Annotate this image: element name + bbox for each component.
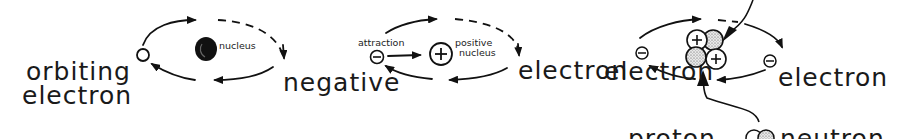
orbit-arrow-bottom-left	[152, 64, 195, 80]
nucleus-dot	[195, 37, 217, 61]
orbit-arrow-bottom-right	[215, 67, 273, 80]
nucleus-label-2: nucleus	[459, 47, 496, 58]
neutron-label: neutron	[780, 124, 885, 139]
detail-arrow-right	[745, 24, 782, 47]
proton-label: proton	[628, 124, 716, 139]
electron-label-5: electron	[778, 63, 888, 92]
attr-arrow-bottom-right	[450, 68, 507, 80]
attr-arrow-top-left	[386, 19, 436, 33]
attraction-label: attraction	[358, 37, 404, 48]
orbit-arrow-top-left	[143, 20, 195, 45]
atom-diagram: nucleus orbiting electron attraction pos…	[0, 0, 912, 139]
orbit-arrow-right	[283, 45, 284, 58]
detail-arrow-bottom-right	[718, 70, 765, 80]
pointer-line-bottom	[703, 80, 759, 122]
pointer-line-top	[730, 0, 753, 32]
negative-label: negative	[283, 68, 400, 97]
panel-orbit: nucleus orbiting electron	[22, 20, 284, 110]
detail-dashed-top	[718, 20, 738, 22]
panel-attraction: attraction positive nucleus negative ele…	[283, 19, 628, 97]
electron-label-4: electron	[604, 57, 714, 86]
orbiting-electron-circle	[137, 49, 149, 61]
nucleus-label: nucleus	[219, 40, 256, 51]
attr-arrow-right	[518, 44, 519, 55]
neutron-mini-icon	[758, 130, 774, 139]
electron-label-1: electron	[22, 81, 132, 110]
attraction-arrow	[388, 55, 420, 56]
panel-nucleus-detail: electron electron proton neutron	[604, 0, 888, 139]
